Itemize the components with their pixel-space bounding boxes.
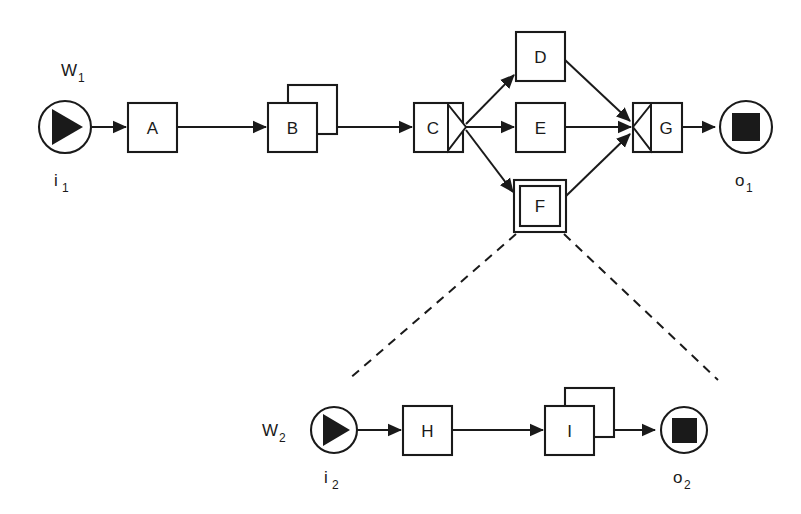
node-i2-label-sub: 2 [332,478,339,492]
workflow-label-w1: W 1 [61,61,85,85]
diagram-canvas: W 1 i 1 A B [0,0,801,514]
node-e[interactable]: E [516,103,565,152]
node-o2[interactable]: o 2 [661,407,707,492]
node-h-label: H [421,422,433,441]
node-b[interactable]: B [268,85,337,152]
node-d[interactable]: D [516,32,565,81]
node-e-label: E [535,119,546,138]
node-o1-label: o [735,171,744,190]
node-c-label: C [427,119,439,138]
node-i1-label: i [54,171,58,190]
workflow-diagram: W 1 i 1 A B [0,0,801,514]
expansion-line-right [564,234,718,380]
workflow-label-w2: W 2 [262,421,286,445]
node-o2-label: o [673,468,682,487]
node-i2[interactable]: i 2 [311,407,357,492]
node-i[interactable]: I [545,388,614,455]
node-i-label: I [567,422,572,441]
node-i1-label-sub: 1 [62,181,69,195]
node-c[interactable]: C [414,103,466,152]
node-g-label: G [659,119,672,138]
stop-square-icon [732,113,760,141]
node-a-label: A [147,119,159,138]
node-i2-label: i [324,468,328,487]
node-b-label: B [287,119,298,138]
workflow-label-w1-text: W [61,61,77,80]
node-d-label: D [534,48,546,67]
edge-d-g [565,60,630,121]
node-f[interactable]: F [514,180,566,232]
node-a[interactable]: A [128,103,177,152]
edge-c-f [466,130,513,192]
workflow-label-w2-sub: 2 [279,431,286,445]
node-o1[interactable]: o 1 [720,101,772,195]
node-o1-label-sub: 1 [746,181,753,195]
expansion-line-left [348,234,516,380]
edge-c-d [466,75,514,124]
node-h[interactable]: H [403,406,452,455]
edge-f-g [566,134,630,196]
stop-square-icon [672,418,697,443]
workflow-label-w2-text: W [262,421,278,440]
node-g[interactable]: G [633,103,682,152]
node-i1[interactable]: i 1 [39,101,91,195]
node-o2-label-sub: 2 [684,478,691,492]
node-f-label: F [535,197,545,216]
workflow-label-w1-sub: 1 [78,71,85,85]
